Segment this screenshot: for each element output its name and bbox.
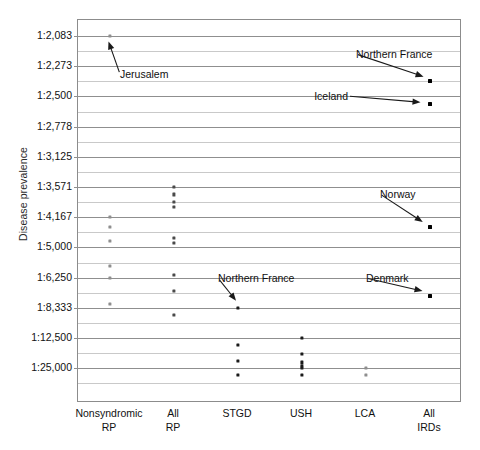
y-tick-mark	[74, 247, 78, 248]
plot-area: 1:2,0831:2,2731:2,5001:2,7781:3,1251:3,5…	[77, 19, 461, 402]
data-point	[172, 201, 175, 204]
y-tick-mark	[74, 36, 78, 37]
y-tick-mark	[74, 187, 78, 188]
annotation-arrow	[366, 180, 438, 237]
annotation-arrow	[94, 26, 134, 88]
data-point	[364, 373, 367, 376]
gridline-minor	[78, 323, 460, 324]
data-point	[172, 273, 175, 276]
gridline-minor	[78, 383, 460, 384]
data-point	[364, 367, 367, 370]
y-tick-label: 1:2,500	[4, 89, 72, 101]
y-tick-mark	[74, 368, 78, 369]
data-point	[172, 206, 175, 209]
gridline-major	[78, 127, 460, 128]
data-point	[300, 336, 303, 339]
data-point	[108, 225, 111, 228]
data-point	[236, 373, 239, 376]
gridline-major	[78, 338, 460, 339]
data-point	[300, 373, 303, 376]
x-axis-label: AllIRDs	[369, 407, 480, 434]
data-point	[108, 302, 111, 305]
data-point	[236, 343, 239, 346]
y-tick-label: 1:25,000	[4, 361, 72, 373]
data-point	[172, 185, 175, 188]
data-point	[172, 313, 175, 316]
data-point	[236, 359, 239, 362]
y-tick-label: 1:12,500	[4, 331, 72, 343]
gridline-major	[78, 308, 460, 309]
x-axis-label-line1: All	[369, 407, 480, 421]
data-point	[172, 289, 175, 292]
y-tick-label: 1:6,250	[4, 271, 72, 283]
x-axis-label-line2: IRDs	[369, 421, 480, 435]
y-tick-mark	[74, 308, 78, 309]
y-tick-mark	[74, 338, 78, 339]
y-tick-label: 1:8,333	[4, 301, 72, 313]
data-point	[108, 276, 111, 279]
gridline-major	[78, 247, 460, 248]
data-point	[300, 367, 303, 370]
annotation-label: Iceland	[78, 90, 348, 102]
annotation-arrow	[352, 264, 438, 305]
data-point	[172, 241, 175, 244]
y-tick-mark	[74, 127, 78, 128]
data-point	[108, 264, 111, 267]
gridline-minor	[78, 172, 460, 173]
y-tick-label: 1:2,778	[4, 120, 72, 132]
gridline-major	[78, 36, 460, 37]
y-tick-mark	[74, 217, 78, 218]
y-tick-label: 1:4,167	[4, 210, 72, 222]
data-point	[108, 216, 111, 219]
y-tick-label: 1:3,571	[4, 180, 72, 192]
gridline-major	[78, 368, 460, 369]
x-axis-label-line2: RP	[113, 421, 233, 435]
data-point	[300, 352, 303, 355]
x-axis-labels: NonsyndromicRPAllRPSTGDUSHLCAAllIRDs	[77, 407, 461, 447]
annotation-arrow	[204, 264, 251, 316]
y-tick-label: 1:5,000	[4, 240, 72, 252]
data-point	[108, 240, 111, 243]
y-tick-mark	[74, 157, 78, 158]
y-tick-label: 1:3,125	[4, 150, 72, 162]
y-tick-label: 1:2,273	[4, 59, 72, 71]
y-tick-label: 1:2,083	[4, 29, 72, 41]
gridline-minor	[78, 142, 460, 143]
data-point	[172, 193, 175, 196]
data-point	[172, 236, 175, 239]
annotation-arrow	[334, 82, 436, 116]
prevalence-scatter-figure: Disease prevalence 1:2,0831:2,2731:2,500…	[0, 0, 480, 450]
gridline-minor	[78, 353, 460, 354]
y-tick-mark	[74, 278, 78, 279]
gridline-major	[78, 157, 460, 158]
y-tick-mark	[74, 66, 78, 67]
